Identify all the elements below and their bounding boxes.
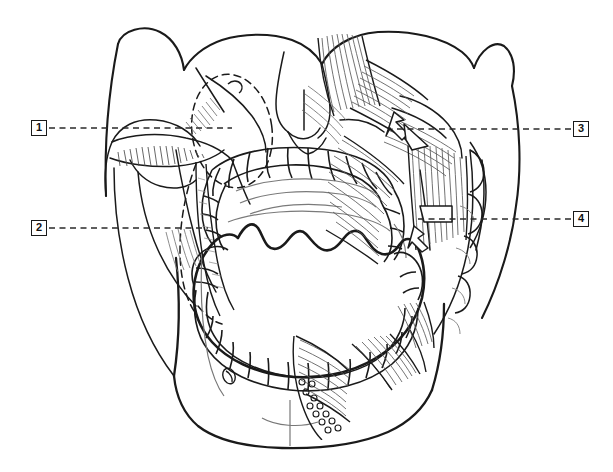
palatal-rugae-1: [236, 179, 378, 195]
temporalis-upper-fan: [352, 66, 414, 132]
nasal-aperture-right: [318, 64, 330, 138]
skull-right-crest: [474, 44, 514, 86]
left-ramus-posterior: [114, 168, 174, 376]
anatomy-illustration: [0, 0, 613, 472]
buccinator-fibers: [328, 140, 398, 256]
callout-label-2[interactable]: 2: [31, 220, 47, 236]
cranium-outline: [118, 28, 322, 70]
skull-outline-group: [106, 28, 520, 318]
soft-palate-edge: [228, 211, 390, 231]
lower-right-molar-block: [394, 252, 423, 300]
frontal-suture: [196, 68, 224, 112]
tooth-u2: [288, 147, 292, 178]
tooth-u8: [247, 152, 250, 182]
orbit-dashed-outline: [184, 69, 279, 193]
tooth-u1: [267, 148, 270, 178]
pterygoid-oblique-fibers: [302, 86, 346, 144]
supraorbital-notch: [228, 81, 242, 93]
left-lateral-contour: [106, 44, 118, 196]
mental-foramen-inner: [226, 371, 232, 382]
right-zygoma-body: [400, 96, 462, 158]
lower-right-molar-div1: [400, 272, 416, 277]
tooth-l5: [328, 362, 329, 389]
nasal-aperture-left: [276, 52, 288, 132]
right-lateral-contour: [482, 86, 519, 318]
callout-label-4[interactable]: 4: [573, 211, 589, 227]
tooth-l2: [268, 358, 269, 385]
callout-label-1[interactable]: 1: [31, 120, 47, 136]
small-foramina: [221, 81, 242, 386]
upper-left-molar-div1: [204, 196, 219, 203]
mandible-left-border: [174, 258, 179, 376]
anatomy-figure: 1 2 3 4: [0, 0, 613, 472]
masseter-insertion: [424, 302, 434, 348]
mandibular-arch-inner: [207, 292, 406, 378]
leader-lines-group: [49, 128, 571, 228]
lower-right-molar-div2: [403, 288, 419, 293]
lower-left-molar-div2: [196, 282, 218, 288]
lower-dental-arch: [192, 247, 423, 391]
tooth-u9: [229, 159, 234, 188]
tooth-l3: [288, 362, 289, 389]
left-temporal-fossa: [105, 120, 200, 196]
right-maxilla-contour: [340, 120, 384, 133]
callout-label-3[interactable]: 3: [573, 121, 589, 137]
mandible-inferior-border: [174, 376, 432, 448]
